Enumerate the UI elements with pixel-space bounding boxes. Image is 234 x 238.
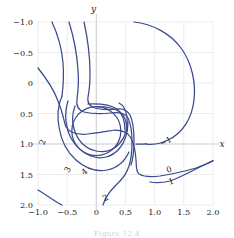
contour-plot-figure: −1.0 −0.5 0 0.5 1.0 1.5 2.0 −1.0 −0.5 0 … xyxy=(0,0,234,238)
y-tick-label: −1.0 xyxy=(13,17,33,27)
x-tick-label: 0 xyxy=(94,207,99,217)
x-axis-label: x xyxy=(219,139,224,149)
x-tick-labels: −1.0 −0.5 0 0.5 1.0 1.5 2.0 xyxy=(28,207,219,217)
x-tick-label: −0.5 xyxy=(57,207,77,217)
y-tick-label: 1.5 xyxy=(20,170,33,180)
y-tick-label: 0 xyxy=(28,78,33,88)
y-tick-label: −0.5 xyxy=(13,48,33,58)
figure-caption: Figure 12.4 xyxy=(0,230,234,238)
x-tick-label: 2.0 xyxy=(206,207,219,217)
y-axis-label: y xyxy=(90,4,97,14)
x-tick-label: 1.5 xyxy=(177,207,190,217)
y-tick-label: 0.5 xyxy=(20,109,33,119)
contour-plot-svg: −1.0 −0.5 0 0.5 1.0 1.5 2.0 −1.0 −0.5 0 … xyxy=(0,0,234,238)
y-tick-labels: −1.0 −0.5 0 0.5 1.0 1.5 2.0 xyxy=(13,17,33,210)
x-tick-label: 1.0 xyxy=(148,207,161,217)
x-tick-label: 0.5 xyxy=(119,207,132,217)
y-tick-label: 1.0 xyxy=(20,139,33,149)
y-tick-label: 2.0 xyxy=(20,200,33,210)
